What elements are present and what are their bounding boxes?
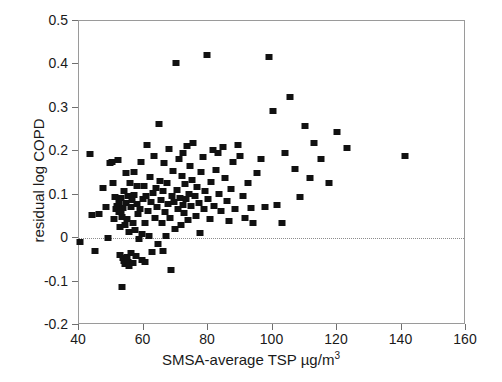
data-point (205, 196, 212, 202)
data-point (138, 231, 145, 237)
y-axis-tick-label: 0.5 (49, 12, 68, 28)
data-point (100, 185, 107, 191)
data-point (311, 140, 318, 146)
data-point (155, 121, 162, 127)
data-point (148, 249, 155, 255)
y-axis-title: residual log COPD (30, 81, 47, 281)
data-point (214, 150, 221, 156)
data-point (183, 196, 190, 202)
data-point (189, 177, 196, 183)
data-point (146, 174, 153, 180)
x-axis-title: SMSA-average TSP µg/m3 (0, 350, 502, 368)
data-point (123, 170, 130, 176)
x-axis-title-superscript: 3 (334, 350, 340, 361)
y-axis-tick-label: 0.2 (49, 142, 68, 158)
data-point (234, 142, 241, 148)
x-axis-tick (336, 324, 337, 330)
data-point (230, 159, 237, 165)
y-axis-tick-label: 0.1 (49, 186, 68, 202)
data-point (282, 150, 289, 156)
data-point (221, 175, 228, 181)
data-point (103, 204, 110, 210)
data-point (185, 217, 192, 223)
data-point (170, 168, 177, 174)
data-point (150, 153, 157, 159)
x-axis-tick-label: 160 (453, 331, 476, 347)
data-point (242, 215, 249, 221)
data-point (111, 216, 118, 222)
data-point (287, 94, 294, 100)
x-axis-tick (401, 324, 402, 330)
data-point (161, 160, 168, 166)
data-point (188, 203, 195, 209)
data-point (227, 186, 234, 192)
data-point (121, 222, 128, 228)
data-point (191, 193, 198, 199)
data-point (160, 188, 167, 194)
data-point (178, 173, 185, 179)
data-point (173, 187, 180, 193)
data-point (219, 144, 226, 150)
data-point (196, 230, 203, 236)
data-point (258, 156, 265, 162)
x-axis-tick (78, 324, 79, 330)
data-point (137, 159, 144, 165)
plot-frame (78, 20, 465, 324)
data-point (162, 209, 169, 215)
data-point (88, 212, 95, 218)
data-point (159, 248, 166, 254)
data-point (296, 194, 303, 200)
data-point (154, 241, 161, 247)
data-point (119, 284, 126, 290)
data-point (164, 180, 171, 186)
y-axis-tick-label: 0.4 (49, 55, 68, 71)
data-point (76, 239, 83, 245)
data-point (163, 233, 170, 239)
plot-canvas (79, 21, 464, 323)
x-axis-tick-label: 100 (260, 331, 283, 347)
data-point (167, 215, 174, 221)
x-axis-tick (207, 324, 208, 330)
data-point (223, 198, 230, 204)
data-point (91, 248, 98, 254)
data-point (198, 169, 205, 175)
data-point (109, 180, 116, 186)
data-point (213, 167, 220, 173)
data-point (301, 123, 308, 129)
data-point (168, 267, 175, 273)
data-point (142, 259, 149, 265)
data-point (199, 154, 206, 160)
data-point (190, 140, 197, 146)
data-point (177, 222, 184, 228)
data-point (105, 235, 112, 241)
data-point (193, 213, 200, 219)
x-axis-tick (143, 324, 144, 330)
data-point (325, 180, 332, 186)
x-axis-tick-label: 60 (135, 331, 151, 347)
data-point (152, 185, 159, 191)
data-point (217, 208, 224, 214)
data-point (181, 210, 188, 216)
data-point (158, 220, 165, 226)
x-axis-tick-label: 120 (324, 331, 347, 347)
scatter-plot-figure: residual log COPD -0.2-0.100.10.20.30.40… (0, 0, 502, 382)
data-point (237, 153, 244, 159)
data-point (270, 108, 277, 114)
x-axis-tick-label: 40 (70, 331, 86, 347)
data-point (278, 220, 285, 226)
data-point (244, 180, 251, 186)
data-point (135, 236, 142, 242)
y-axis-tick-label: -0.2 (44, 316, 68, 332)
x-axis-tick (272, 324, 273, 330)
data-point (130, 169, 137, 175)
data-point (250, 220, 257, 226)
data-point (401, 153, 408, 159)
data-point (343, 145, 350, 151)
data-point (203, 52, 210, 58)
data-point (232, 206, 239, 212)
data-point (266, 54, 273, 60)
data-point (95, 211, 102, 217)
data-point (141, 220, 148, 226)
data-point (166, 146, 173, 152)
data-point (179, 202, 186, 208)
